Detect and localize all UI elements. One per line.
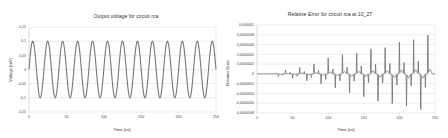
x-axis-label: Time [ns] [337, 127, 354, 132]
y-tick-label: 0,0000004 [237, 53, 254, 57]
error-line [257, 35, 435, 109]
y-tick-label: 0,000001 [239, 23, 254, 27]
y-tick-label: 0,05 [19, 54, 26, 58]
y-axis-label: Relative Error [225, 60, 230, 86]
y-tick-label: 0,1 [21, 39, 26, 43]
output-voltage-chart: Output voltage for circuit rca 0,150,10,… [0, 0, 224, 138]
y-tick-label: -0,0000002 [236, 82, 254, 86]
y-axis-label: Voltage [mV] [8, 58, 13, 82]
grid [29, 27, 216, 114]
y-tick-label: -0,0000004 [236, 92, 254, 96]
x-tick-label: 150 [361, 116, 367, 120]
x-tick-label: 250 [432, 116, 438, 120]
y-tick-label: -0,15 [18, 110, 26, 114]
chart-title: Relative Error for circuit rca at 10_27 [288, 11, 373, 17]
x-tick-labels: 050100150200250 [28, 115, 219, 119]
relative-error-chart: Relative Error for circuit rca at 10_27 … [224, 0, 448, 138]
grid [257, 25, 435, 115]
y-tick-label: -0,0000006 [236, 101, 254, 105]
y-tick-label: -0,05 [18, 82, 26, 86]
x-tick-label: 50 [291, 116, 295, 120]
x-tick-labels: 050100150200250 [256, 116, 438, 120]
x-tick-label: 250 [213, 115, 219, 119]
y-tick-label: -0,1 [20, 96, 26, 100]
y-tick-label: -0,0000008 [236, 111, 254, 115]
x-tick-label: 200 [176, 115, 182, 119]
x-tick-label: 0 [28, 115, 30, 119]
y-tick-labels: 0,150,10,050-0,05-0,1-0,15 [18, 25, 26, 114]
x-tick-label: 50 [64, 115, 68, 119]
x-axis-label: Time [ns] [113, 127, 130, 132]
y-tick-label: 0,0000006 [237, 43, 254, 47]
y-tick-label: 0,0000002 [237, 62, 254, 66]
x-tick-label: 100 [101, 115, 107, 119]
y-tick-label: 0,15 [19, 25, 26, 29]
y-tick-labels: 0,0000010,00000080,00000060,00000040,000… [236, 23, 254, 115]
y-tick-label: 0,0000008 [237, 33, 254, 37]
x-tick-label: 0 [256, 116, 258, 120]
relative-error-svg: Relative Error for circuit rca at 10_27 … [224, 0, 448, 138]
x-tick-label: 150 [138, 115, 144, 119]
y-tick-label: 0 [252, 72, 254, 76]
chart-title: Output voltage for circuit rca [94, 13, 159, 19]
x-tick-label: 100 [325, 116, 331, 120]
y-tick-label: 0 [24, 68, 26, 72]
x-tick-label: 200 [396, 116, 402, 120]
output-voltage-svg: Output voltage for circuit rca 0,150,10,… [0, 0, 224, 138]
